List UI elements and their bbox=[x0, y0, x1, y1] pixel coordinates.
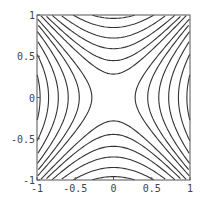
contour-line bbox=[52, 146, 174, 179]
contour-line bbox=[73, 15, 153, 27]
contour-line bbox=[178, 54, 189, 141]
contour-lines bbox=[37, 15, 190, 180]
y-tick-label: -1 bbox=[23, 175, 35, 186]
y-tick-label: 0.5 bbox=[17, 51, 35, 62]
x-tick-label: 0 bbox=[110, 183, 116, 194]
y-tick-label: -0.5 bbox=[11, 134, 35, 145]
y-tick-label: 1 bbox=[29, 10, 35, 21]
plot-frame bbox=[37, 15, 190, 180]
y-tick-label: 0 bbox=[29, 93, 35, 104]
contour-line bbox=[92, 15, 134, 18]
contour-line bbox=[52, 15, 174, 48]
x-tick-label: 1 bbox=[187, 183, 193, 194]
y-axis-ticks: -1-0.500.51 bbox=[11, 10, 40, 186]
contour-line bbox=[187, 75, 190, 120]
contour-line bbox=[37, 32, 68, 164]
x-tick-label: 0.5 bbox=[143, 183, 161, 194]
contour-plot: -1-0.500.51 -1-0.500.51 bbox=[0, 0, 202, 199]
x-tick-label: -0.5 bbox=[63, 183, 87, 194]
contour-line bbox=[159, 32, 190, 164]
